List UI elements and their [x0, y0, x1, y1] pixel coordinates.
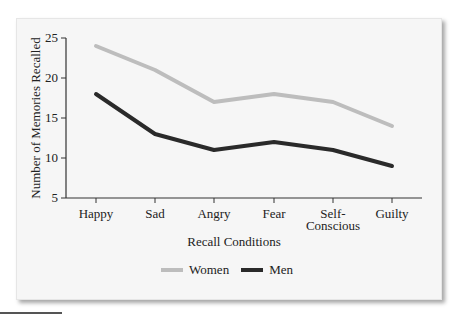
- y-tick-label: 15: [45, 110, 58, 125]
- legend-label: Women: [189, 262, 229, 278]
- legend: WomenMen: [0, 262, 454, 278]
- x-tick-label: Fear: [262, 206, 286, 221]
- legend-label: Men: [269, 262, 293, 278]
- x-axis-title: Recall Conditions: [187, 234, 281, 249]
- legend-item-men: Men: [241, 262, 293, 278]
- x-tick-label: Happy: [79, 206, 114, 221]
- legend-item-women: Women: [161, 262, 229, 278]
- x-tick-label: Conscious: [306, 218, 360, 233]
- y-tick-label: 20: [45, 70, 58, 85]
- legend-swatch: [161, 268, 183, 272]
- y-tick-label: 5: [52, 190, 59, 205]
- legend-swatch: [241, 268, 263, 272]
- x-tick-label: Angry: [197, 206, 231, 221]
- x-tick-label: Sad: [145, 206, 165, 221]
- series-line-men: [96, 94, 392, 166]
- y-tick-label: 10: [45, 150, 58, 165]
- x-tick-label: Guilty: [375, 206, 409, 221]
- series-line-women: [96, 46, 392, 126]
- y-axis-title: Number of Memories Recalled: [28, 37, 43, 199]
- y-tick-label: 25: [45, 30, 58, 45]
